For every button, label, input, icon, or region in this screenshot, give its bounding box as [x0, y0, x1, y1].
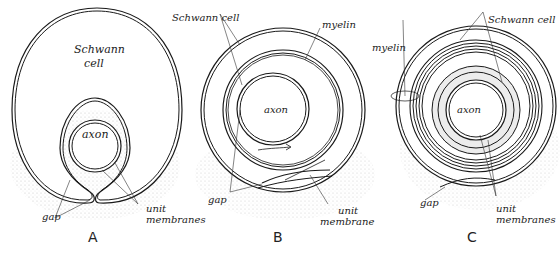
label-myelin-c: myelin — [372, 42, 406, 53]
label-unit-membrane-b-line2: membrane — [320, 216, 374, 227]
label-axon-b: axon — [264, 104, 288, 115]
label-myelin-b: myelin — [322, 19, 356, 30]
label-axon-a: axon — [82, 129, 108, 140]
label-unit-membranes-c: unit — [496, 203, 516, 214]
label-schwann-cell-a: Schwann — [74, 44, 125, 55]
label-gap-a: gap — [42, 211, 61, 222]
panel-label-a: A — [88, 229, 98, 245]
label-unit-membranes-c-line2: membranes — [496, 214, 556, 225]
label-schwann-cell-c: Schwann cell — [488, 14, 555, 25]
panel-label-c: C — [467, 229, 477, 245]
label-gap-c: gap — [420, 197, 439, 208]
panel-a-drawing — [10, 8, 182, 220]
label-unit-membranes-a-line2: membranes — [146, 214, 206, 225]
label-unit-membranes-a: unit — [146, 203, 166, 214]
label-schwann-cell-b: Schwann cell — [172, 12, 239, 23]
label-schwann-cell-a-line2: cell — [84, 58, 104, 69]
label-gap-b: gap — [208, 194, 227, 205]
label-unit-membrane-b: unit — [338, 205, 358, 216]
panel-label-b: B — [273, 229, 283, 245]
label-axon-c: axon — [457, 104, 481, 115]
panel-b-drawing — [195, 14, 375, 220]
